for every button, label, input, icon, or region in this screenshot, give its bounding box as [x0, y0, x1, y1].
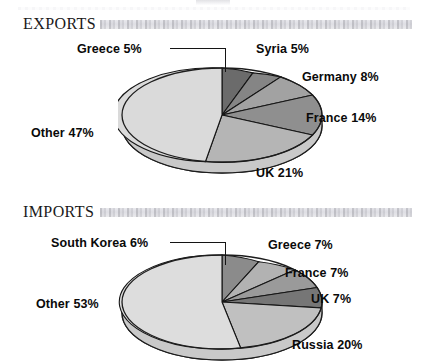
exports-label-syria: Syria 5%: [256, 42, 309, 56]
imports-label-other: Other 53%: [36, 297, 99, 311]
chart-page: EXPORTS: [0, 0, 424, 362]
cut-off-title-remnant: [196, 0, 230, 5]
exports-label-greece: Greece 5%: [77, 42, 142, 56]
exports-pie-svg: [118, 58, 330, 176]
exports-label-other: Other 47%: [31, 126, 94, 140]
imports-label-russia: Russia 20%: [292, 338, 362, 352]
exports-section-header: EXPORTS: [0, 15, 424, 37]
exports-label-germany: Germany 8%: [302, 70, 379, 84]
exports-leader-greece-vertical: [225, 48, 226, 72]
imports-section-header: IMPORTS: [0, 203, 424, 225]
exports-label-france: France 14%: [306, 111, 376, 125]
imports-header-bar: [100, 208, 412, 217]
imports-heading: IMPORTS: [23, 203, 94, 221]
imports-leader-southkorea-vertical: [225, 242, 226, 265]
exports-pie-chart: [118, 58, 330, 176]
exports-pie-slices: [118, 68, 322, 163]
exports-heading: EXPORTS: [23, 15, 96, 33]
imports-label-france: France 7%: [285, 266, 348, 280]
imports-label-greece: Greece 7%: [268, 238, 333, 252]
exports-label-uk: UK 21%: [256, 166, 303, 180]
exports-leader-greece-horizontal: [170, 48, 226, 49]
imports-label-uk: UK 7%: [311, 292, 351, 306]
imports-label-south-korea: South Korea 6%: [51, 236, 148, 250]
cut-off-title-underline: [18, 7, 410, 10]
exports-header-bar: [100, 20, 412, 29]
imports-leader-southkorea-horizontal: [170, 242, 226, 243]
